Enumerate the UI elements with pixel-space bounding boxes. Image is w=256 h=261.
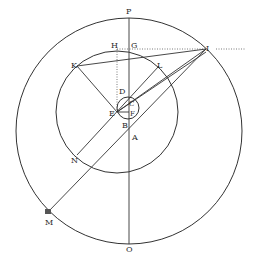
label-M: M xyxy=(45,218,53,227)
label-O: O xyxy=(126,245,133,254)
label-C: C xyxy=(129,100,134,108)
label-G: G xyxy=(131,41,137,50)
label-I: I xyxy=(206,44,209,53)
label-A: A xyxy=(131,133,138,142)
label-D: D xyxy=(119,87,125,96)
geometric-diagram: P H G I K L D C E F B A N M O xyxy=(0,0,256,261)
line-K-E xyxy=(77,66,117,112)
label-F: F xyxy=(130,110,135,118)
label-K: K xyxy=(71,61,78,70)
label-H: H xyxy=(111,41,118,50)
label-B: B xyxy=(122,121,128,130)
point-M-marker xyxy=(45,209,51,214)
label-P: P xyxy=(126,7,132,16)
label-N: N xyxy=(71,156,78,165)
line-K-I xyxy=(77,49,206,66)
line-M-I xyxy=(48,49,206,212)
label-L: L xyxy=(157,61,163,70)
label-E: E xyxy=(109,109,115,118)
